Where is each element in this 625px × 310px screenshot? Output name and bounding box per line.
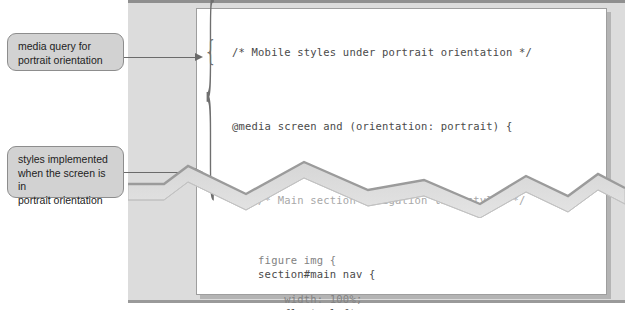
- callout-line: styles implemented: [18, 153, 114, 167]
- code-line: figure img {: [232, 254, 602, 267]
- arrowhead-icon: [195, 168, 203, 176]
- code-line: width: 100%;: [232, 293, 602, 306]
- implemented-styles-brace: {: [202, 0, 219, 199]
- code-line-comment: /* Main section navigation list styles *…: [232, 194, 602, 207]
- callout-line: media query for: [18, 40, 114, 54]
- callout-line: when the screen is in: [18, 167, 114, 194]
- connector-line-media-query: [124, 57, 200, 58]
- code-line-blank: [232, 85, 602, 94]
- figure-root: /* Mobile styles under portrait orientat…: [0, 0, 625, 310]
- callout-line: portrait orientation: [18, 54, 114, 68]
- arrowhead-icon: [195, 53, 203, 61]
- code-line: /* Mobile styles under portrait orientat…: [232, 46, 602, 59]
- connector-line-implemented-styles: [124, 172, 200, 173]
- code-line-blank: [232, 159, 602, 168]
- callout-line: portrait orientation: [18, 194, 114, 208]
- media-query-callout: media query for portrait orientation: [7, 33, 124, 71]
- implemented-styles-callout: styles implemented when the screen is in…: [7, 146, 124, 198]
- code-listing-lower: figure img { width: 100%; } }: [232, 228, 602, 310]
- code-line: @media screen and (orientation: portrait…: [232, 120, 602, 133]
